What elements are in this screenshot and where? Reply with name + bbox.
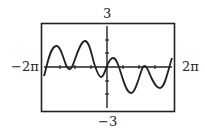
y-max-label: 3 bbox=[103, 7, 111, 20]
y-min-label: −3 bbox=[98, 115, 117, 128]
x-min-label: −2π bbox=[11, 60, 39, 73]
x-max-label: 2π bbox=[182, 60, 199, 73]
